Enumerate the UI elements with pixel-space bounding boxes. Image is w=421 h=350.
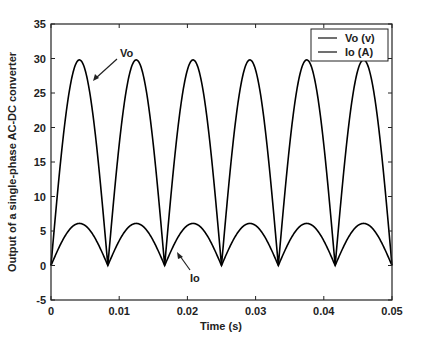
y-tick-label: 20 [34,122,46,134]
x-axis-title: Time (s) [200,320,242,332]
x-tick-label: 0.03 [245,305,266,317]
x-tick-label: 0.05 [381,305,402,317]
y-tick-label: 30 [34,53,46,65]
y-tick-label: 5 [40,225,46,237]
legend-label-vo: Vo (v) [345,32,375,44]
y-tick-label: -5 [36,294,46,306]
x-tick-label: 0.04 [313,305,335,317]
series-line-vo [51,60,392,266]
io-annotation-label: Io [190,272,200,284]
vo-annotation-label: Vo [120,47,134,59]
x-axis-ticks: 00.010.020.030.040.05 [48,24,403,317]
y-tick-label: 0 [40,260,46,272]
x-tick-label: 0 [48,305,54,317]
vo-annotation-arrow [96,59,117,78]
x-tick-label: 0.01 [108,305,129,317]
legend: Vo (v) Io (A) [311,29,388,61]
plot-lines [51,60,392,266]
y-tick-label: 25 [34,87,46,99]
chart: 00.010.020.030.040.05 -505101520253035 T… [0,0,421,350]
y-tick-label: 35 [34,18,46,30]
y-axis-title: Output of a single-phase AC-DC converter [6,51,18,272]
legend-label-io: Io (A) [345,46,373,58]
io-annotation-arrow [180,256,190,270]
vo-arrowhead-icon [93,74,99,81]
y-tick-label: 15 [34,156,46,168]
y-tick-label: 10 [34,191,46,203]
x-tick-label: 0.02 [177,305,198,317]
